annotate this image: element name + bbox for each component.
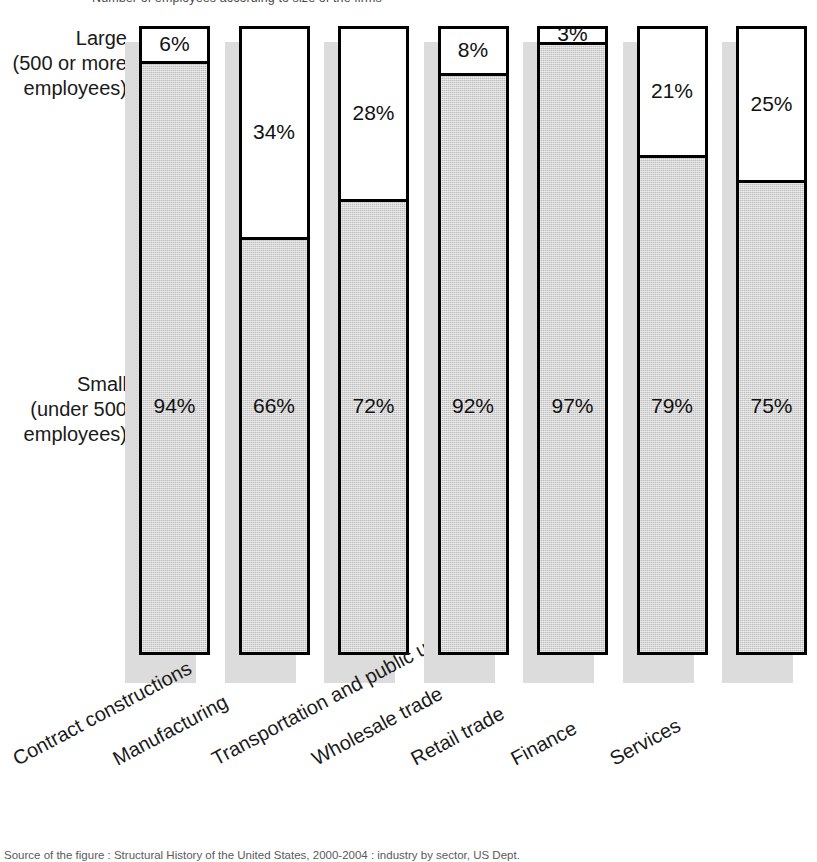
value-label-large: 8% <box>438 38 509 62</box>
plot-area: 6%94%Contract constructions34%66%Manufac… <box>0 0 817 700</box>
value-label-small: 72% <box>338 394 409 418</box>
bar-1[interactable] <box>139 26 210 655</box>
x-axis-tick-label: Contract constructions <box>9 657 195 771</box>
value-label-large: 25% <box>736 92 807 116</box>
clipped-source-label: Source of the figure : Structural Histor… <box>0 849 817 861</box>
x-axis-tick-label: Finance <box>507 717 581 771</box>
value-label-small: 79% <box>637 394 708 418</box>
value-label-small: 66% <box>239 394 310 418</box>
x-axis-tick-label: Services <box>606 714 685 770</box>
value-label-small: 92% <box>438 394 509 418</box>
clipped-source-caption: Source of the figure : Structural Histor… <box>0 849 817 862</box>
segment-small[interactable] <box>441 73 506 652</box>
segment-small[interactable] <box>242 237 307 652</box>
bar-5[interactable] <box>537 26 608 655</box>
bar-4[interactable] <box>438 26 509 655</box>
value-label-large: 34% <box>239 120 310 144</box>
bar-7[interactable] <box>736 26 807 655</box>
bar-6[interactable] <box>637 26 708 655</box>
segment-small[interactable] <box>142 61 207 652</box>
value-label-large: 21% <box>637 79 708 103</box>
segment-small[interactable] <box>540 42 605 652</box>
value-label-large: 28% <box>338 101 409 125</box>
segment-small[interactable] <box>341 199 406 652</box>
value-label-small: 94% <box>139 394 210 418</box>
value-label-small: 75% <box>736 394 807 418</box>
value-label-small: 97% <box>537 394 608 418</box>
value-label-large: 6% <box>139 32 210 56</box>
value-label-large: 3% <box>537 22 608 46</box>
